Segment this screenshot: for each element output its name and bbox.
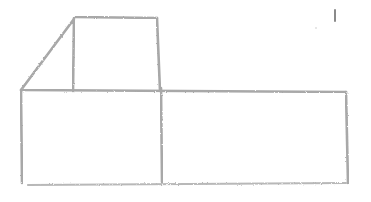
upper-square bbox=[73, 17, 160, 91]
rectangle-divider bbox=[161, 88, 162, 182]
sketch-canvas bbox=[0, 0, 371, 202]
lower-rectangle-left-edge bbox=[21, 90, 22, 183]
upper-square-right-edge bbox=[157, 18, 160, 91]
lower-rectangle-bottom-edge bbox=[28, 183, 346, 185]
upper-square-left-edge bbox=[73, 18, 74, 91]
lower-rectangle bbox=[21, 90, 348, 185]
lower-rectangle-right-edge bbox=[346, 92, 348, 183]
lower-rectangle-top-edge bbox=[21, 90, 346, 92]
upper-square-top-edge bbox=[75, 17, 157, 18]
stray-dot bbox=[315, 27, 317, 29]
diagonal-line bbox=[21, 19, 74, 90]
